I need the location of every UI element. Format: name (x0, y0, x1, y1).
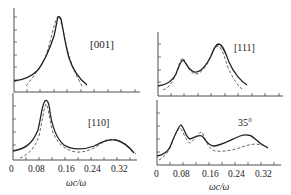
tick-label: 0 (9, 164, 14, 174)
tick-label: 0.32 (111, 164, 128, 174)
panel-111: [111] (158, 32, 283, 96)
tick-label: 0.16 (58, 164, 75, 174)
panel-label-35deg: 35° (238, 117, 252, 128)
tick-label: 0.24 (228, 169, 245, 179)
panel-001: [001] (14, 8, 140, 92)
tick-label: 0.24 (84, 164, 101, 174)
tick-label: 0.08 (28, 164, 45, 174)
x-axis-label: ωc/ω (209, 182, 230, 192)
tick-label: 0.16 (202, 169, 219, 179)
panel-label-001: [001] (90, 38, 114, 50)
left-x-axis-labels: 0 0.08 0.16 0.24 0.32 ωc/ω (9, 164, 128, 188)
panel-label-110: [110] (88, 117, 109, 128)
panel-110: [110] (13, 93, 137, 160)
tick-label: 0.08 (173, 169, 190, 179)
tick-label: 0 (154, 169, 159, 179)
panel-35deg: 35° (157, 100, 281, 165)
right-x-axis-labels: 0 0.08 0.16 0.24 0.32 ωc/ω (154, 169, 272, 192)
figure: [001] [110] 0 0.08 0.16 0.24 0.32 ωc/ω (0, 0, 291, 195)
x-axis-label: ωc/ω (66, 178, 87, 188)
panel-label-111: [111] (234, 42, 255, 53)
tick-label: 0.32 (255, 169, 272, 179)
